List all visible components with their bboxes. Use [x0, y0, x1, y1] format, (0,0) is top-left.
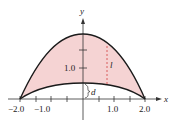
x-axis-arrow-icon: [156, 97, 162, 101]
distance-brace: [85, 84, 90, 98]
figure: y x −2.0 −1.0 1.0 2.0 1.0 l d: [0, 0, 177, 128]
distance-label: d: [91, 87, 96, 97]
x-tick-label-neg2: −2.0: [8, 104, 25, 114]
x-tick-label-1: 1.0: [107, 104, 119, 114]
x-axis-label: x: [163, 94, 168, 104]
y-axis-arrow-icon: [81, 18, 85, 24]
x-tick-label-2: 2.0: [139, 104, 151, 114]
y-tick-label-1: 1.0: [64, 63, 76, 73]
x-tick-label-neg1: −1.0: [34, 104, 51, 114]
y-axis-label: y: [79, 6, 84, 16]
